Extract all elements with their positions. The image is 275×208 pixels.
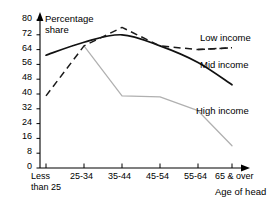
x-tick-label-less-than-25-line2: than 25 xyxy=(31,183,61,193)
x-tick-label-less-than-25-line1: Less xyxy=(31,172,50,182)
series-label-low-income: Low income xyxy=(200,33,251,43)
x-tick-label-35-44: 35-44 xyxy=(108,172,131,182)
y-axis xyxy=(37,12,44,168)
y-tick-label-16: 16 xyxy=(12,132,32,142)
x-tick-label-65-and-over: 65 & over xyxy=(215,172,254,182)
y-tick-label-64: 64 xyxy=(12,44,32,54)
low-income-leader xyxy=(198,48,232,50)
y-tick-label-72: 72 xyxy=(12,29,32,39)
series-label-high-income: High income xyxy=(196,106,249,116)
y-tick-label-48: 48 xyxy=(12,73,32,83)
y-tick-label-40: 40 xyxy=(12,88,32,98)
y-tick-label-8: 8 xyxy=(12,147,32,157)
series-label-mid-income: Mid income xyxy=(200,60,249,70)
y-tick-label-56: 56 xyxy=(12,58,32,68)
x-tick-label-25-34: 25-34 xyxy=(70,172,93,182)
y-tick-label-24: 24 xyxy=(12,118,32,128)
y-axis-title-line1: Percentage xyxy=(45,14,94,24)
x-tick-label-45-54: 45-54 xyxy=(146,172,169,182)
x-tick-label-55-64: 55-64 xyxy=(184,172,207,182)
y-tick-label-32: 32 xyxy=(12,103,32,113)
y-axis-title-line2: share xyxy=(45,25,69,35)
chart-container: 80 72 64 56 48 40 32 24 16 8 0 Percentag… xyxy=(0,0,275,208)
x-axis-title: Age of head xyxy=(215,187,266,197)
y-tick-label-80: 80 xyxy=(12,14,32,24)
x-axis-ticks xyxy=(46,164,232,169)
y-tick-label-0: 0 xyxy=(12,162,32,172)
